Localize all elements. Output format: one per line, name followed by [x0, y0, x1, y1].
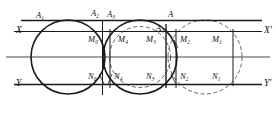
- point-label-a1: A1: [36, 11, 44, 20]
- point-label-m3: M3: [146, 35, 156, 44]
- point-label-n4: N4: [114, 72, 122, 81]
- axis-label-x-prime: X': [264, 26, 272, 36]
- prime-mark: ': [269, 78, 271, 88]
- subscript: 4: [125, 39, 128, 45]
- subscript: 3: [153, 39, 156, 45]
- axis-label-y: Y: [16, 79, 21, 89]
- point-label-m1: M1: [212, 35, 222, 44]
- tick-n0: [99, 74, 104, 84]
- axis-label-y-prime: Y': [264, 79, 271, 89]
- point-label-n0: N0: [88, 72, 96, 81]
- point-label-n2: N2: [180, 72, 188, 81]
- subscript: 2: [96, 13, 99, 19]
- axis-label-x: X: [16, 26, 22, 36]
- point-label-a2: A2: [91, 9, 99, 18]
- point-label-m4: M4: [118, 35, 128, 44]
- subscript: 2: [187, 39, 190, 45]
- subscript: 1: [219, 39, 222, 45]
- subscript: 3: [112, 14, 115, 20]
- point-label-n3: N3: [146, 72, 154, 81]
- point-label-a3: A3: [107, 10, 115, 19]
- point-label-n1: N1: [212, 72, 220, 81]
- figure-root: XX'YY' A1A2A3AA4M0M4M3M2M1N0N4N3N2N1: [0, 0, 276, 116]
- subscript: 1: [41, 15, 44, 21]
- prime-mark: ': [270, 25, 272, 35]
- subscript: 4: [161, 28, 164, 34]
- point-label-a: A: [168, 10, 173, 19]
- subscript: 0: [95, 39, 98, 45]
- point-label-a4: A4: [156, 24, 164, 33]
- point-label-m0: M0: [88, 35, 98, 44]
- point-label-m2: M2: [180, 35, 190, 44]
